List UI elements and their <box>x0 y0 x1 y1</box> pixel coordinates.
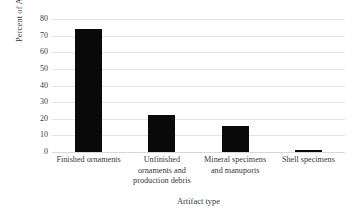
y-tick-label: 50 <box>26 65 48 73</box>
bar <box>75 29 102 152</box>
y-tick-label: 60 <box>26 48 48 56</box>
gridline-80 <box>52 19 345 20</box>
plot-area <box>52 19 345 152</box>
bar <box>295 150 322 152</box>
y-tick-label: 30 <box>26 98 48 106</box>
category-label-line: Finished ornaments <box>47 155 130 166</box>
y-tick-label: 70 <box>26 32 48 40</box>
bar-chart-figure: Percent of Analyzed Assemblage 807060504… <box>0 0 357 213</box>
category-label-line: Shell specimens <box>267 155 350 166</box>
category-label-line: production debris <box>120 176 203 187</box>
category-label: Unfinishedornaments andproduction debris <box>120 155 203 187</box>
y-tick-label: 10 <box>26 131 48 139</box>
x-axis-title: Artifact type <box>52 196 345 206</box>
x-axis-category-labels: Finished ornamentsUnfinishedornaments an… <box>52 155 345 191</box>
y-tick-label: 80 <box>26 15 48 23</box>
bar <box>222 126 249 152</box>
y-tick-label: 20 <box>26 115 48 123</box>
category-label-line: Unfinished <box>120 155 203 166</box>
category-label: Mineral specimensand manuports <box>194 155 277 176</box>
gridline-0 <box>52 152 345 153</box>
category-label-line: Mineral specimens <box>194 155 277 166</box>
y-axis-tick-labels: 80706050403020100 <box>22 19 48 152</box>
category-label-line: ornaments and <box>120 166 203 177</box>
category-label: Shell specimens <box>267 155 350 166</box>
bar <box>148 115 175 152</box>
y-axis-title-container: Percent of Analyzed Assemblage <box>4 18 18 152</box>
y-tick-label: 0 <box>26 148 48 156</box>
y-tick-label: 40 <box>26 82 48 90</box>
category-label: Finished ornaments <box>47 155 130 166</box>
category-label-line: and manuports <box>194 166 277 177</box>
